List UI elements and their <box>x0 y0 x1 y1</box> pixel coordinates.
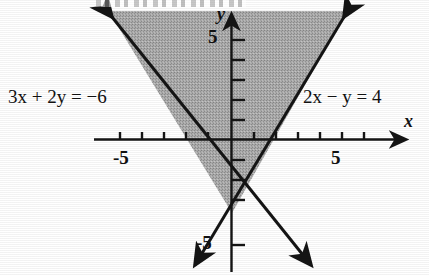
x-tick-label-neg5: -5 <box>113 148 129 167</box>
line1-equation-label: 3x + 2y = −6 <box>8 87 107 106</box>
y-tick-label-5: 5 <box>208 27 218 46</box>
x-tick-label-5: 5 <box>331 148 341 167</box>
y-axis-label: y <box>217 5 225 23</box>
shaded-solution-region <box>109 11 348 213</box>
x-axis-label: x <box>404 112 413 130</box>
y-tick-label-neg5: -5 <box>196 233 212 252</box>
line2-equation-label: 2x − y = 4 <box>303 87 381 106</box>
